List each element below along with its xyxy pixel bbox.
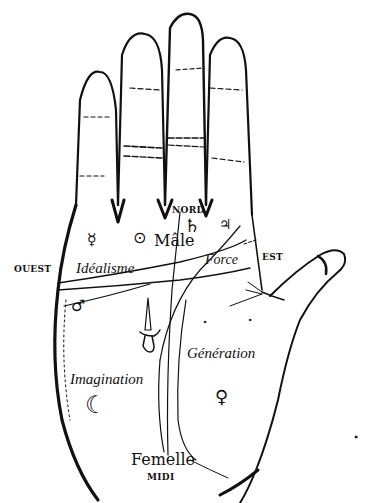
direction-south-label: MIDI [147, 473, 174, 482]
sun-symbol-icon: ⊙ [133, 230, 146, 246]
region-force-label: Force [205, 253, 238, 267]
saturn-symbol-icon: ♄ [184, 217, 200, 235]
direction-west-label: OUEST [14, 265, 51, 274]
palmistry-diagram: NORD EST OUEST MIDI Idéalisme Force Géné… [0, 0, 366, 503]
region-female-label: Femelle [131, 452, 195, 468]
venus-symbol-icon: ♀ [215, 388, 228, 406]
mars-symbol-icon: ♂ [71, 298, 85, 314]
region-generation-label: Génération [187, 346, 255, 361]
mercury-symbol-icon: ☿ [87, 232, 97, 248]
region-imagination-label: Imagination [70, 372, 143, 387]
moon-symbol-icon: ☾ [85, 393, 107, 417]
direction-east-label: EST [262, 253, 283, 262]
direction-north-label: NORD [172, 206, 205, 215]
hand-outline-illustration [0, 0, 366, 503]
jupiter-symbol-icon: ♃ [219, 217, 232, 231]
region-idealism-label: Idéalisme [76, 261, 134, 276]
